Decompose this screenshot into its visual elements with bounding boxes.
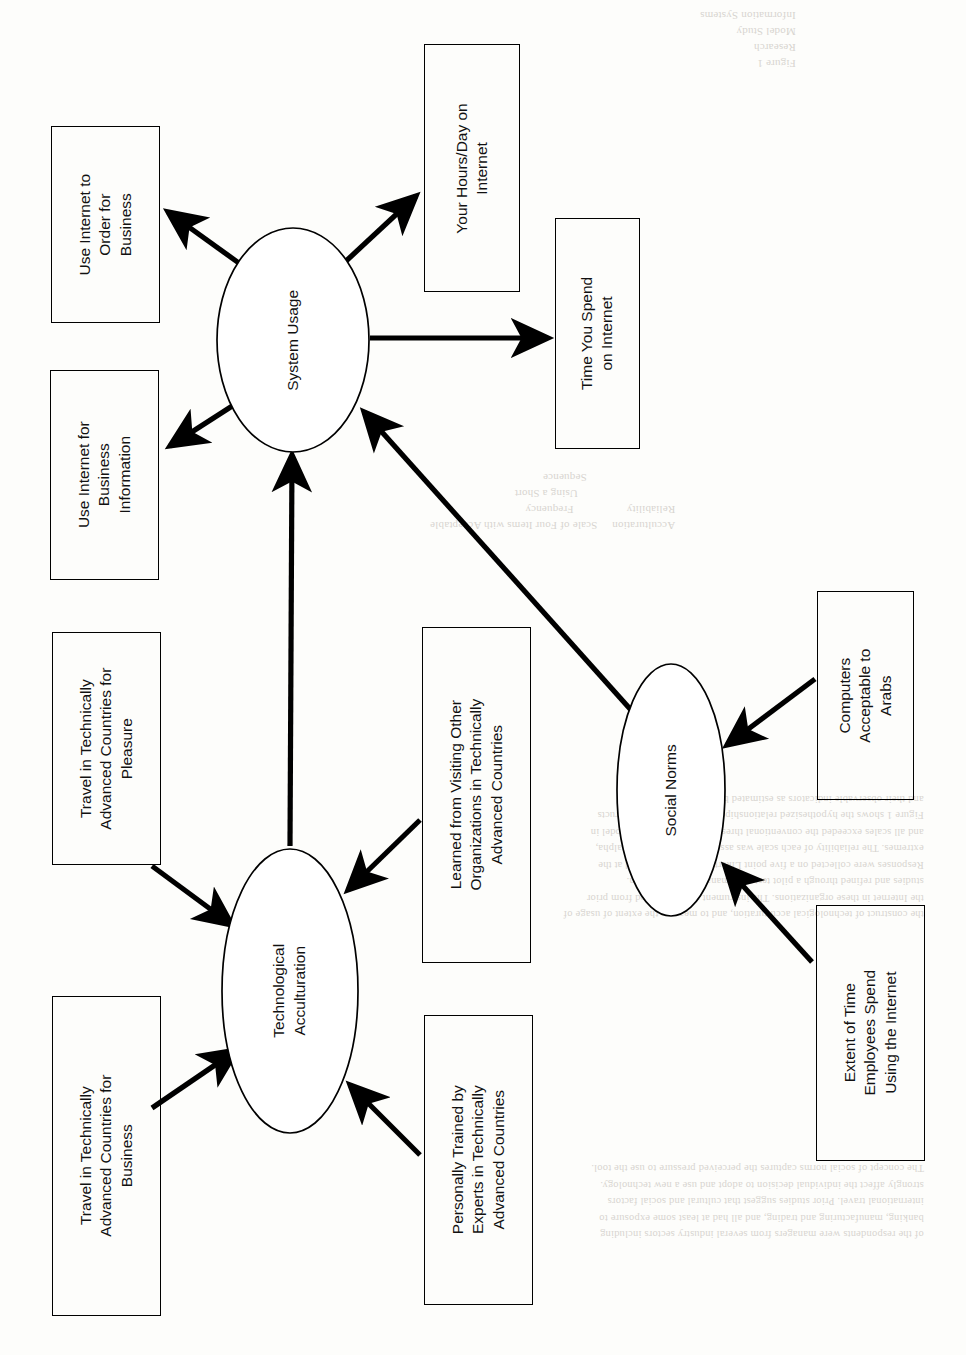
arrow-travel-pleasure-to-acculturation	[152, 866, 232, 925]
scanned-page: Figure 1 Research Model Study Informatio…	[0, 0, 966, 1355]
construct-label-system-usage: System Usage	[217, 228, 369, 452]
system-usage-line-1: System Usage	[284, 290, 301, 391]
travel-pleasure-line-3: Pleasure	[118, 718, 135, 779]
acculturation-line-2: Acculturation	[291, 946, 308, 1036]
time-you-spend-line-2: on Internet	[599, 296, 616, 370]
use-internet-order-line-3: Business	[117, 193, 134, 256]
arrow-computers-acceptable-to-social-norms	[727, 679, 815, 745]
time-you-spend-line-1: Time You Spend	[578, 277, 595, 390]
hours-per-day-line-2: Internet	[473, 142, 490, 195]
indicator-box-travel-pleasure: Travel in Technically Advanced Countries…	[52, 632, 161, 865]
arrow-extent-of-time-to-social-norms	[725, 866, 812, 962]
extent-of-time-line-1: Extent of Time	[841, 983, 858, 1082]
use-internet-order-line-1: Use Internet to	[76, 174, 93, 276]
personally-trained-line-1: Personally Trained by	[449, 1085, 466, 1234]
indicator-box-extent-of-time: Extent of Time Employees Spend Using the…	[816, 905, 925, 1161]
travel-business-line-1: Travel in Technically	[77, 1087, 94, 1226]
personally-trained-line-3: Advanced Countries	[490, 1090, 507, 1230]
learned-from-visiting-line-3: Advanced Countries	[488, 725, 505, 865]
indicator-box-hours-per-day: Your Hours/Day on Internet	[424, 44, 520, 292]
learned-from-visiting-line-2: Organizations in Technically	[467, 699, 484, 891]
extent-of-time-line-2: Employees Spend	[861, 970, 878, 1096]
extent-of-time-line-3: Using the Internet	[882, 972, 899, 1094]
travel-pleasure-line-1: Travel in Technically	[77, 679, 94, 818]
computers-acceptable-line-1: Computers	[836, 658, 853, 734]
travel-pleasure-line-2: Advanced Countries for	[97, 668, 114, 830]
use-internet-information-line-2: Business	[95, 444, 112, 507]
hours-per-day-line-1: Your Hours/Day on	[453, 103, 470, 233]
indicator-box-time-you-spend: Time You Spend on Internet	[555, 218, 640, 449]
use-internet-information-line-3: Information	[116, 436, 133, 514]
construct-label-technological-acculturation: Technological Acculturation	[222, 849, 358, 1133]
indicator-box-use-internet-order: Use Internet to Order for Business	[51, 126, 160, 323]
use-internet-information-line-1: Use Internet for	[75, 422, 92, 529]
travel-business-line-2: Advanced Countries for	[97, 1075, 114, 1237]
indicator-box-use-internet-information: Use Internet for Business Information	[50, 370, 159, 580]
construct-label-social-norms: Social Norms	[617, 664, 725, 916]
arrow-acculturation-to-system-usage	[290, 455, 292, 846]
indicator-box-personally-trained: Personally Trained by Experts in Technic…	[424, 1015, 533, 1305]
use-internet-order-line-2: Order for	[96, 193, 113, 255]
arrow-learned-visiting-to-acculturation	[348, 820, 420, 890]
computers-acceptable-line-2: Acceptable to	[856, 649, 873, 743]
social-norms-line-1: Social Norms	[662, 744, 679, 836]
computers-acceptable-line-3: Arabs	[877, 675, 894, 716]
indicator-box-computers-acceptable: Computers Acceptable to Arabs	[817, 591, 914, 800]
indicator-box-learned-from-visiting: Learned from Visiting Other Organization…	[422, 627, 531, 963]
learned-from-visiting-line-1: Learned from Visiting Other	[447, 700, 464, 889]
acculturation-line-1: Technological	[270, 944, 287, 1038]
travel-business-line-3: Business	[118, 1125, 135, 1188]
arrow-personally-trained-to-acculturation	[350, 1085, 420, 1155]
personally-trained-line-2: Experts in Technically	[469, 1086, 486, 1235]
indicator-box-travel-business: Travel in Technically Advanced Countries…	[52, 996, 161, 1316]
